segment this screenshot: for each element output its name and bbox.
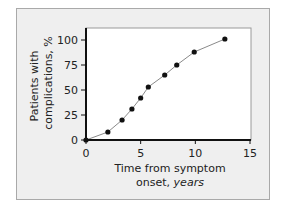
y-tick-label: 25 [64, 109, 78, 122]
data-point [119, 117, 124, 122]
data-point [129, 106, 134, 111]
x-axis-label-line1: Time from symptom [113, 162, 225, 175]
x-axis-label-units: years [173, 176, 205, 189]
y-tick-label: 100 [57, 34, 78, 47]
y-tick-label: 75 [64, 59, 78, 72]
data-point [146, 84, 151, 89]
data-point [162, 72, 167, 77]
y-tick-label: 0 [71, 134, 78, 147]
x-tick-label: 0 [83, 147, 90, 160]
x-tick-label: 5 [137, 147, 144, 160]
x-tick-label: 15 [243, 147, 257, 160]
data-point [174, 62, 179, 67]
x-axis-label-line2: onset, years [136, 176, 204, 189]
y-tick-label: 50 [64, 84, 78, 97]
data-point [138, 95, 143, 100]
data-point [192, 49, 197, 54]
y-axis-label-line1: Patients with [28, 51, 41, 122]
x-ticks: 051015 [83, 140, 258, 160]
x-tick-label: 10 [188, 147, 202, 160]
data-point [222, 36, 227, 41]
chart: 051015 0255075100 Time from symptom onse… [0, 0, 283, 210]
y-axis-label-line2: complications, % [42, 36, 55, 130]
data-point [105, 129, 110, 134]
y-ticks: 0255075100 [57, 34, 86, 147]
plot-area [86, 28, 251, 140]
x-axis-label-prefix: onset, [136, 176, 174, 189]
